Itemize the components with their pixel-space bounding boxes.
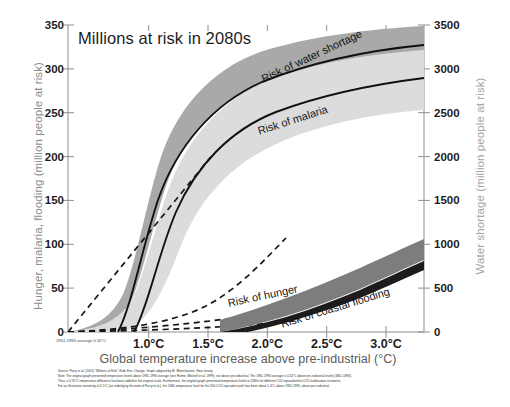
chart-title: Millions at risk in 2080s: [78, 29, 251, 48]
y-left-tick-350: 350: [30, 19, 64, 31]
y-axis-left-title: Hunger, malaria, flooding (million peopl…: [32, 36, 44, 336]
y-right-tick-500: 500: [434, 282, 478, 294]
footnote-line-4: For an illustrative sensitivity of 2.5°C…: [58, 384, 358, 389]
x-tick-3-0: 3.0°C: [356, 337, 416, 351]
chart-figure: Millions at risk in 2080s Risk of water …: [0, 0, 510, 407]
y-right-tick-0: 0: [434, 326, 478, 338]
y-right-tick-1000: 1000: [434, 238, 478, 250]
y-right-tick-2500: 2500: [434, 107, 478, 119]
x-tick-2-5: 2.5°C: [297, 337, 357, 351]
x-tick-1-0: 1.0°C: [119, 337, 179, 351]
y-axis-right-title: Water shortage (million people at risk): [474, 26, 486, 326]
y-right-tick-2000: 2000: [434, 151, 478, 163]
y-right-tick-3000: 3000: [434, 63, 478, 75]
x-tick-1-5: 1.5°C: [178, 337, 238, 351]
y-right-tick-1500: 1500: [434, 194, 478, 206]
footnote: Source: Parry et al. (2001) "Millions at…: [58, 369, 358, 389]
x-axis-title: Global temperature increase above pre-in…: [68, 352, 428, 366]
origin-annotation: 1961-1990 average 0.32°C: [56, 338, 112, 344]
x-tick-2-0: 2.0°C: [237, 337, 297, 351]
band-hunger: [220, 239, 424, 332]
y-right-tick-3500: 3500: [434, 19, 478, 31]
